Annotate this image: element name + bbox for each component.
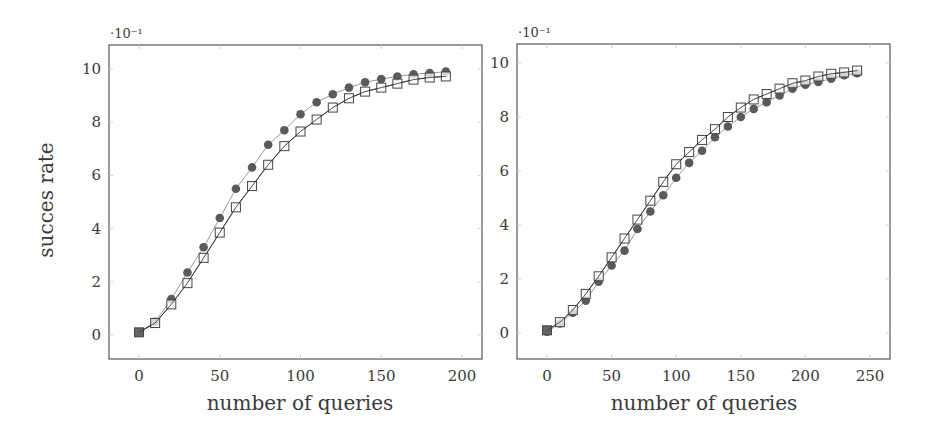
- y-tick-label: 2: [499, 270, 509, 288]
- x-tick-label: 0: [542, 367, 552, 385]
- data-point-circle: [737, 113, 746, 122]
- x-tick-label: 200: [448, 367, 477, 385]
- data-point-circle: [672, 173, 681, 182]
- x-tick-label: 100: [662, 367, 691, 385]
- data-point-circle: [361, 78, 370, 87]
- data-point-circle: [296, 110, 305, 119]
- y-tick-label: 0: [499, 324, 509, 342]
- x-tick-label: 50: [210, 367, 229, 385]
- x-tick-label: 200: [791, 367, 820, 385]
- data-point-circle: [232, 184, 241, 193]
- figure: 0246810050100150200·10⁻¹number of querie…: [0, 0, 927, 432]
- y-tick-label: 6: [91, 166, 101, 184]
- data-point-circle: [762, 98, 771, 107]
- data-point-circle: [659, 191, 668, 200]
- series-line-square-overlay: [139, 76, 446, 332]
- y-tick-label: 2: [91, 273, 101, 291]
- data-point-circle: [685, 159, 694, 168]
- data-point-circle: [248, 163, 257, 172]
- x-tick-label: 50: [602, 367, 621, 385]
- data-point-circle: [280, 126, 289, 135]
- data-point-circle: [215, 214, 224, 223]
- x-tick-label: 0: [134, 367, 144, 385]
- x-tick-label: 150: [726, 367, 755, 385]
- series-line-square-overlay: [547, 71, 857, 331]
- data-point-circle: [183, 268, 192, 277]
- chart-canvas: 0246810050100150200·10⁻¹number of querie…: [0, 0, 927, 432]
- y-tick-label: 8: [91, 113, 101, 131]
- y-axis-label: succes rate: [34, 142, 58, 257]
- y-tick-label: 6: [499, 162, 509, 180]
- right-panel: 0246810050100150200250·10⁻¹number of que…: [490, 25, 890, 415]
- x-tick-label: 100: [286, 367, 315, 385]
- y-scale-exponent: ·10⁻¹: [110, 26, 143, 41]
- data-point-circle: [633, 225, 642, 234]
- y-tick-label: 0: [91, 326, 101, 344]
- y-scale-exponent: ·10⁻¹: [518, 25, 551, 40]
- data-point-circle: [329, 90, 338, 99]
- data-point-circle: [199, 243, 208, 252]
- series-line-circle: [139, 72, 446, 333]
- data-point-square: [135, 328, 144, 337]
- x-tick-label: 150: [367, 367, 396, 385]
- data-point-circle: [620, 246, 629, 255]
- series-line-square: [547, 71, 857, 331]
- data-point-circle: [724, 122, 733, 131]
- data-point-circle: [749, 105, 758, 114]
- y-tick-label: 4: [499, 216, 509, 234]
- data-point-circle: [264, 141, 273, 150]
- y-tick-label: 8: [499, 108, 509, 126]
- series-line-circle: [547, 73, 857, 331]
- y-tick-label: 4: [91, 220, 101, 238]
- data-point-circle: [646, 207, 655, 216]
- data-point-circle: [377, 75, 386, 84]
- x-axis-label: number of queries: [207, 391, 394, 415]
- data-point-circle: [698, 146, 707, 155]
- x-axis-label: number of queries: [611, 391, 798, 415]
- y-tick-label: 10: [82, 60, 101, 78]
- series-line-square: [139, 76, 446, 332]
- data-point-circle: [711, 133, 720, 142]
- y-tick-label: 10: [490, 54, 509, 72]
- data-point-circle: [345, 83, 354, 92]
- x-tick-label: 250: [856, 367, 885, 385]
- left-panel: 0246810050100150200·10⁻¹number of querie…: [82, 26, 482, 415]
- data-point-circle: [312, 98, 321, 107]
